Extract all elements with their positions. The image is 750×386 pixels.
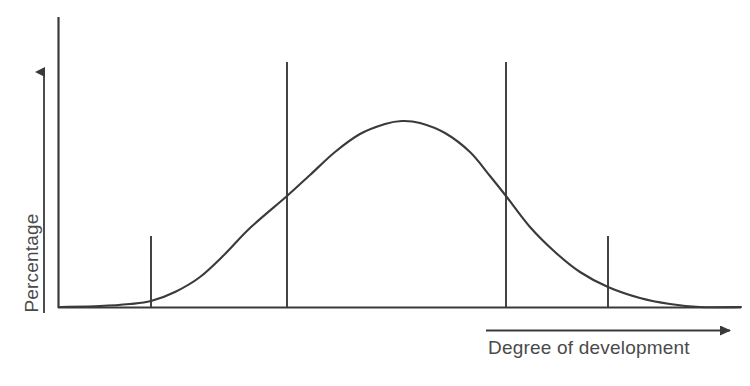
diagram-canvas <box>0 0 750 386</box>
x-axis-label: Degree of development <box>488 337 690 359</box>
bell-curve <box>60 121 741 307</box>
y-axis-label: Percentage <box>21 198 43 328</box>
bell-curve-diagram: Percentage Degree of development <box>0 0 750 386</box>
